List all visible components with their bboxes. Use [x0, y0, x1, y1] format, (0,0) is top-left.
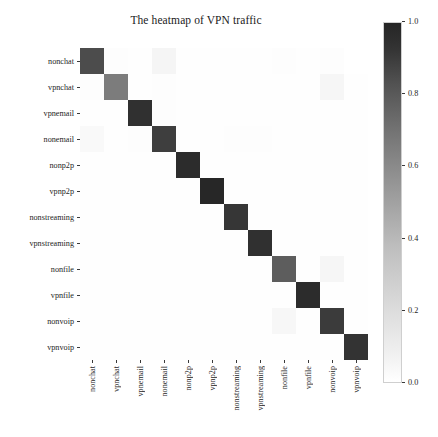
- heatmap-cell: [128, 48, 152, 74]
- heatmap-cell: [320, 334, 344, 360]
- heatmap-cell: [344, 334, 368, 360]
- x-tick-vpnvoip: vpnvoip: [344, 360, 368, 393]
- heatmap-cell: [320, 230, 344, 256]
- y-tick-label: vpnemail: [44, 109, 77, 118]
- heatmap-cell: [80, 308, 104, 334]
- heatmap-cell: [344, 48, 368, 74]
- heatmap-cell: [152, 48, 176, 74]
- heatmap-cell: [296, 204, 320, 230]
- heatmap-cell: [152, 74, 176, 100]
- heatmap-cell: [296, 282, 320, 308]
- y-tick-nonstreaming: nonstreaming: [29, 204, 80, 230]
- colorbar-tick-label: 0.6: [408, 161, 418, 170]
- colorbar-tick-label: 1.0: [408, 17, 418, 26]
- heatmap-cell: [344, 178, 368, 204]
- x-tick-vpnemail: vpnemail: [128, 360, 152, 396]
- x-tick-mark: [308, 360, 309, 363]
- x-tick-nonvoip: nonvoip: [320, 360, 344, 393]
- heatmap-cell: [152, 308, 176, 334]
- heatmap-cell: [272, 256, 296, 282]
- x-tick-label: vpnchat: [112, 366, 121, 392]
- heatmap-cell: [344, 152, 368, 178]
- heatmap-cell: [200, 74, 224, 100]
- heatmap-cell: [248, 334, 272, 360]
- heatmap-cell: [128, 152, 152, 178]
- heatmap-cell: [296, 152, 320, 178]
- heatmap-cell: [80, 204, 104, 230]
- heatmap-cell: [176, 204, 200, 230]
- heatmap-cell: [104, 256, 128, 282]
- heatmap-cell: [296, 308, 320, 334]
- heatmap-cell: [272, 230, 296, 256]
- x-tick-label: vpnfile: [304, 366, 313, 389]
- colorbar-tick-label: 0.2: [408, 306, 418, 315]
- heatmap-cell: [296, 100, 320, 126]
- heatmap-cell: [320, 152, 344, 178]
- heatmap-cell: [248, 308, 272, 334]
- colorbar-tick-mark: [402, 238, 405, 239]
- heatmap-cell: [104, 282, 128, 308]
- colorbar: 1.00.80.60.40.20.0: [383, 22, 402, 383]
- colorbar-tick-label: 0.8: [408, 89, 418, 98]
- y-tick-label: nonemail: [44, 135, 77, 144]
- plot-area: [80, 48, 368, 360]
- colorbar-tick-mark: [402, 382, 405, 383]
- heatmap-cell: [200, 152, 224, 178]
- heatmap-cell: [344, 230, 368, 256]
- heatmap-cell: [224, 282, 248, 308]
- heatmap-cell: [272, 100, 296, 126]
- heatmap-cell: [320, 282, 344, 308]
- heatmap-cell: [224, 230, 248, 256]
- heatmap-cell: [152, 126, 176, 152]
- heatmap-cell: [200, 100, 224, 126]
- heatmap-cell: [344, 256, 368, 282]
- x-tick-label: nonfile: [280, 366, 289, 389]
- x-tick-mark: [260, 360, 261, 363]
- heatmap-cell: [128, 230, 152, 256]
- heatmap-cell: [104, 48, 128, 74]
- colorbar-tick-mark: [402, 21, 405, 22]
- heatmap-cell: [248, 74, 272, 100]
- heatmap-cell: [248, 204, 272, 230]
- heatmap-cell: [152, 256, 176, 282]
- y-tick-vpnstreaming: vpnstreaming: [29, 230, 80, 256]
- heatmap-cell: [152, 204, 176, 230]
- y-tick-vpnchat: vpnchat: [48, 74, 80, 100]
- heatmap-cell: [320, 256, 344, 282]
- x-tick-mark: [140, 360, 141, 363]
- colorbar-tick-mark: [402, 310, 405, 311]
- heatmap-cell: [272, 126, 296, 152]
- heatmap-cell: [224, 126, 248, 152]
- heatmap-cell: [128, 308, 152, 334]
- heatmap-cell: [272, 308, 296, 334]
- heatmap-cell: [128, 178, 152, 204]
- heatmap-cell: [128, 74, 152, 100]
- heatmap-cell: [248, 282, 272, 308]
- heatmap-cell: [104, 204, 128, 230]
- colorbar-tick-mark: [402, 165, 405, 166]
- y-tick-label: vpnp2p: [49, 187, 77, 196]
- y-tick-label: nonvoip: [47, 317, 77, 326]
- x-tick-mark: [332, 360, 333, 363]
- heatmap-cell: [80, 100, 104, 126]
- heatmap-cell: [224, 334, 248, 360]
- heatmap-cell: [176, 126, 200, 152]
- heatmap-cell: [80, 282, 104, 308]
- y-axis: nonchatvpnchatvpnemailnonemailnonp2pvpnp…: [0, 48, 80, 360]
- x-tick-label: vpnvoip: [352, 366, 361, 393]
- y-tick-label: vpnstreaming: [29, 239, 77, 248]
- heatmap-cell: [152, 178, 176, 204]
- x-tick-label: nonchat: [88, 366, 97, 392]
- heatmap-cell: [176, 74, 200, 100]
- heatmap-cell: [200, 308, 224, 334]
- heatmap-cell: [296, 48, 320, 74]
- x-tick-vpnchat: vpnchat: [104, 360, 128, 392]
- heatmap-cell: [248, 100, 272, 126]
- heatmap-cell: [152, 334, 176, 360]
- colorbar-tick-1.0: 1.0: [402, 17, 418, 26]
- heatmap-cell: [200, 282, 224, 308]
- heatmap-cell: [320, 178, 344, 204]
- heatmap-cell: [272, 204, 296, 230]
- colorbar-tick-0.0: 0.0: [402, 378, 418, 387]
- y-tick-label: nonstreaming: [29, 213, 77, 222]
